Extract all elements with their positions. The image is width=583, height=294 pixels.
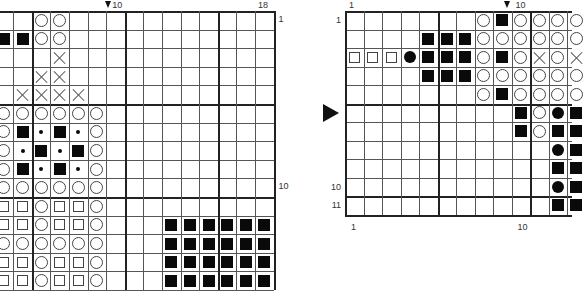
- grid-row-line: [0, 141, 274, 142]
- open-square-icon: [73, 257, 84, 268]
- dot-icon: [21, 149, 25, 153]
- grid-row-line: [345, 215, 572, 217]
- cross-icon: [570, 51, 583, 64]
- grid-row-line: [345, 141, 572, 142]
- open-square-icon: [54, 275, 65, 286]
- filled-square-icon: [184, 238, 196, 250]
- open-circle-icon: [90, 144, 103, 157]
- grid-col-line: [567, 11, 568, 215]
- cross-icon: [16, 88, 29, 101]
- filled-square-icon: [459, 70, 471, 82]
- column-label: 18: [258, 0, 268, 10]
- filled-square-icon: [72, 145, 84, 157]
- grid-row-line: [0, 160, 274, 161]
- open-circle-icon: [533, 88, 546, 101]
- filled-square-icon: [184, 256, 196, 268]
- filled-square-icon: [422, 33, 434, 45]
- row-label: 11: [329, 200, 341, 210]
- open-circle-icon: [35, 32, 48, 45]
- grid-col-line: [255, 11, 256, 290]
- open-circle-icon: [533, 106, 546, 119]
- open-circle-icon: [533, 14, 546, 27]
- filled-square-icon: [570, 199, 582, 211]
- filled-square-icon: [570, 144, 582, 156]
- grid-row-line: [345, 159, 572, 160]
- filled-square-icon: [240, 275, 252, 287]
- filled-square-icon: [570, 125, 582, 137]
- open-circle-icon: [90, 256, 103, 269]
- filled-square-icon: [203, 275, 215, 287]
- dot-icon: [58, 149, 62, 153]
- cross-icon: [53, 88, 66, 101]
- filled-square-icon: [552, 199, 564, 211]
- grid-row-line: [0, 197, 274, 199]
- filled-square-icon: [221, 219, 233, 231]
- grid-col-line: [549, 11, 550, 215]
- grid-row-line: [0, 234, 274, 235]
- filled-square-icon: [570, 162, 582, 174]
- open-circle-icon: [16, 181, 29, 194]
- open-circle-icon: [53, 32, 66, 45]
- row-label: 10: [279, 181, 289, 191]
- open-circle-icon: [90, 237, 103, 250]
- filled-square-icon: [496, 88, 508, 100]
- grid-col-line: [143, 11, 144, 290]
- filled-square-icon: [165, 238, 177, 250]
- filled-square-icon: [258, 219, 270, 231]
- grid-col-line: [236, 11, 237, 290]
- open-square-icon: [349, 52, 360, 63]
- open-square-icon: [73, 201, 84, 212]
- open-circle-icon: [90, 218, 103, 231]
- open-circle-icon: [35, 237, 48, 250]
- filled-square-icon: [221, 238, 233, 250]
- row-label: 1: [279, 14, 284, 24]
- open-square-icon: [73, 219, 84, 230]
- open-circle-icon: [477, 69, 490, 82]
- filled-square-icon: [203, 219, 215, 231]
- grid-col-line: [106, 11, 107, 290]
- open-circle-icon: [0, 181, 10, 194]
- open-square-icon: [54, 219, 65, 230]
- grid-col-line: [199, 11, 200, 290]
- grid-col-line: [456, 11, 457, 215]
- open-square-icon: [17, 257, 28, 268]
- column-label-top: 10: [516, 0, 526, 10]
- open-square-icon: [386, 52, 397, 63]
- filled-square-icon: [17, 163, 29, 175]
- row-marker-icon: [323, 104, 339, 122]
- open-circle-icon: [35, 181, 48, 194]
- open-square-icon: [54, 201, 65, 212]
- open-circle-icon: [514, 69, 527, 82]
- grid-col-line: [364, 11, 365, 215]
- filled-square-icon: [552, 125, 564, 137]
- open-circle-icon: [35, 256, 48, 269]
- open-square-icon: [54, 257, 65, 268]
- grid-col-line: [274, 11, 276, 290]
- grid-col-line: [125, 11, 127, 290]
- grid-col-line: [181, 11, 182, 290]
- grid-row-line: [0, 271, 274, 272]
- open-circle-icon: [53, 107, 66, 120]
- open-square-icon: [73, 275, 84, 286]
- grid-col-line: [13, 11, 14, 290]
- filled-square-icon: [258, 238, 270, 250]
- grid-row-line: [0, 48, 274, 49]
- open-circle-icon: [90, 181, 103, 194]
- open-circle-icon: [90, 125, 103, 138]
- filled-square-icon: [441, 51, 453, 63]
- cross-icon: [35, 88, 48, 101]
- filled-square-icon: [221, 275, 233, 287]
- grid-col-line: [345, 11, 347, 215]
- open-circle-icon: [72, 107, 85, 120]
- row-label: 1: [329, 15, 341, 25]
- open-circle-icon: [90, 200, 103, 213]
- grid-row-line: [0, 104, 274, 106]
- open-circle-icon: [514, 32, 527, 45]
- open-circle-icon: [477, 88, 490, 101]
- cross-icon: [53, 70, 66, 83]
- open-circle-icon: [35, 200, 48, 213]
- filled-circle-icon: [552, 144, 564, 156]
- grid-col-line: [162, 11, 163, 290]
- grid-col-line: [218, 11, 220, 290]
- open-circle-icon: [72, 237, 85, 250]
